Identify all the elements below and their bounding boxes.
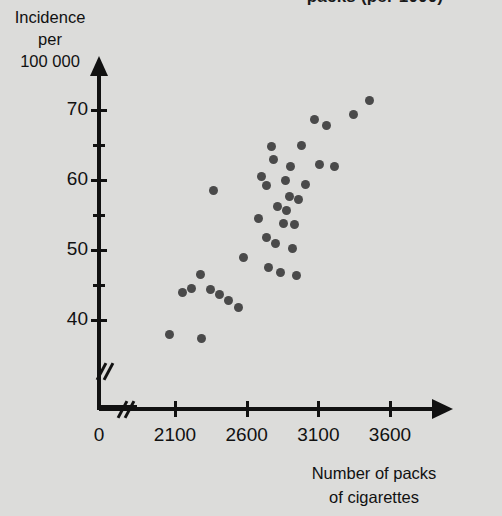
scatter-point bbox=[262, 181, 271, 190]
scatter-point bbox=[290, 220, 299, 229]
scatter-point bbox=[209, 186, 218, 195]
scatter-point bbox=[234, 303, 243, 312]
scatter-point bbox=[187, 284, 196, 293]
scatter-plot-figure: packs (per 1000) Incidence per 100 000 N… bbox=[0, 0, 502, 516]
scatter-point-layer bbox=[0, 0, 502, 516]
scatter-point bbox=[310, 115, 319, 124]
scatter-point bbox=[322, 121, 331, 130]
scatter-point bbox=[165, 330, 174, 339]
scatter-point bbox=[197, 334, 206, 343]
scatter-point bbox=[301, 180, 310, 189]
scatter-point bbox=[178, 288, 187, 297]
scatter-point bbox=[254, 214, 263, 223]
scatter-point bbox=[282, 206, 291, 215]
scatter-point bbox=[269, 155, 278, 164]
scatter-point bbox=[224, 296, 233, 305]
scatter-point bbox=[276, 268, 285, 277]
scatter-point bbox=[330, 162, 339, 171]
scatter-point bbox=[365, 96, 374, 105]
scatter-point bbox=[297, 141, 306, 150]
scatter-point bbox=[315, 160, 324, 169]
scatter-point bbox=[285, 192, 294, 201]
scatter-point bbox=[288, 244, 297, 253]
scatter-point bbox=[206, 285, 215, 294]
scatter-point bbox=[257, 172, 266, 181]
scatter-point bbox=[271, 239, 280, 248]
scatter-point bbox=[294, 195, 303, 204]
scatter-point bbox=[239, 253, 248, 262]
scatter-point bbox=[349, 110, 358, 119]
scatter-point bbox=[262, 233, 271, 242]
scatter-point bbox=[279, 219, 288, 228]
scatter-point bbox=[264, 263, 273, 272]
scatter-point bbox=[292, 271, 301, 280]
scatter-point bbox=[267, 142, 276, 151]
scatter-point bbox=[286, 162, 295, 171]
scatter-point bbox=[215, 290, 224, 299]
scatter-point bbox=[196, 270, 205, 279]
scatter-point bbox=[281, 176, 290, 185]
scatter-point bbox=[273, 202, 282, 211]
